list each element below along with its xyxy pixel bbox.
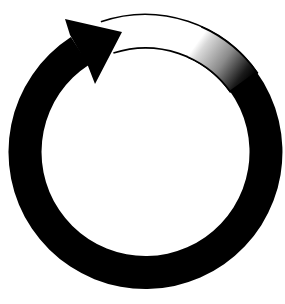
cycle-arrow-graphic xyxy=(0,0,285,304)
cycle-diagram xyxy=(0,0,285,304)
